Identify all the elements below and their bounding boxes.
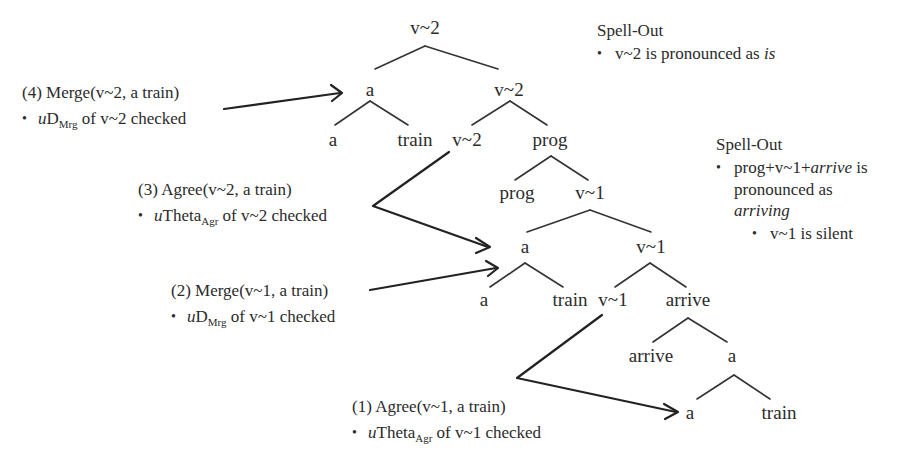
spellout-mid-title: Spell-Out: [716, 134, 868, 155]
node-bar-v2: v~2: [494, 80, 523, 99]
node-prog-head: prog: [500, 183, 535, 202]
node-train-bottom: train: [762, 403, 797, 422]
annotation-step4: (4) Merge(v~2, a train) uDMrg of v~2 che…: [22, 83, 186, 130]
node-spec-a-mid: a: [521, 237, 529, 256]
step3-title: (3) Agree(v~2, a train): [138, 180, 327, 200]
spellout-top-title: Spell-Out: [597, 20, 775, 41]
step1-title: (1) Agree(v~1, a train): [352, 397, 541, 417]
node-train-mid: train: [553, 290, 588, 309]
spellout-mid: Spell-Out prog+v~1+arrive ispronounced a…: [716, 134, 868, 244]
node-spec-a-top: a: [366, 80, 374, 99]
node-a-mid-left: a: [480, 290, 488, 309]
step2-bullet: uDMrg of v~1 checked: [171, 307, 335, 327]
node-prog-phrase: prog: [533, 130, 568, 149]
spellout-top-bullet: v~2 is pronounced as is: [597, 43, 775, 64]
node-a-bottom: a: [686, 403, 694, 422]
annotation-step3: (3) Agree(v~2, a train) uThetaAgr of v~2…: [138, 180, 327, 227]
step4-title: (4) Merge(v~2, a train): [22, 83, 186, 103]
step3-bullet: uThetaAgr of v~2 checked: [138, 206, 327, 226]
spellout-mid-bullet: prog+v~1+arrive ispronounced asarriving: [716, 157, 868, 221]
node-arrive-head: arrive: [629, 346, 673, 365]
annotation-step2: (2) Merge(v~1, a train) uDMrg of v~1 che…: [171, 281, 335, 328]
node-head-v2: v~2: [452, 130, 481, 149]
spellout-top: Spell-Out v~2 is pronounced as is: [597, 20, 775, 65]
node-a-low-phrase: a: [728, 346, 736, 365]
annotation-step1: (1) Agree(v~1, a train) uThetaAgr of v~1…: [352, 397, 541, 444]
syntax-tree-diagram: v~2 a v~2 a train v~2 prog prog v~1 a v~…: [0, 0, 905, 467]
node-bar-v1: v~1: [636, 237, 665, 256]
node-train-top: train: [398, 130, 433, 149]
step2-title: (2) Merge(v~1, a train): [171, 281, 335, 301]
node-a-top-left: a: [329, 130, 337, 149]
node-head-v1: v~1: [598, 290, 627, 309]
spellout-mid-sub-bullet: v~1 is silent: [752, 223, 868, 244]
node-v1-phrase: v~1: [575, 183, 604, 202]
step4-bullet: uDMrg of v~2 checked: [22, 109, 186, 129]
step1-bullet: uThetaAgr of v~1 checked: [352, 423, 541, 443]
node-arrive-phrase: arrive: [666, 290, 710, 309]
node-root-v2: v~2: [410, 18, 439, 37]
